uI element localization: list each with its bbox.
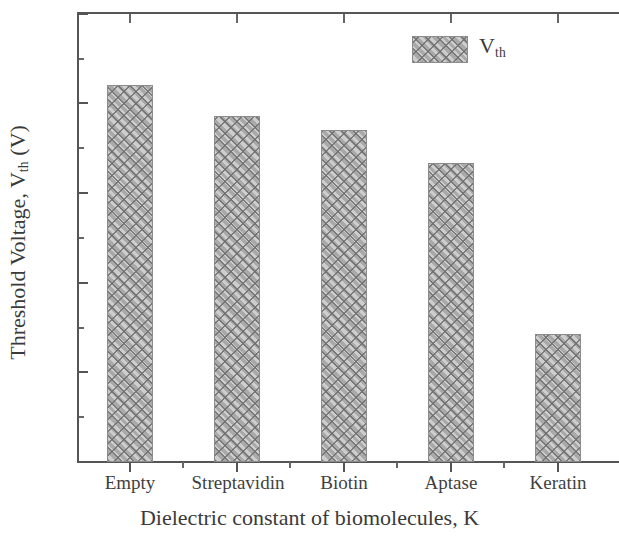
x-tick-top-2 [343,14,345,23]
x-tick-major-0 [129,462,131,472]
y-tick-major-0 [79,461,88,463]
y-tick-minor-0 [79,416,84,418]
x-tick-top-4 [557,14,559,23]
bar-aptase [428,163,474,462]
y-tick-major-4 [79,102,88,104]
legend-label-vth: Vth [479,34,506,65]
legend-swatch-vth [412,36,468,63]
legend: Vth [412,34,506,64]
y-tick-minor-4 [79,58,84,60]
x-tick-minor-1 [289,462,291,468]
x-tick-major-4 [557,462,559,472]
y-axis-title-unit: (V) [5,125,30,161]
y-axis-title-subscript: th [16,161,31,172]
bar-biotin [321,130,367,462]
x-tick-top-1 [236,14,238,23]
x-label-empty: Empty [75,472,185,494]
y-tick-major-5 [79,13,88,15]
x-tick-top-0 [129,14,131,23]
x-axis-title: Dielectric constant of biomolecules, K [0,505,619,531]
x-tick-top-3 [450,14,452,23]
legend-label-main: V [479,33,495,58]
x-label-streptavidin: Streptavidin [172,472,304,494]
y-tick-major-3 [79,192,88,194]
x-tick-major-3 [450,462,452,472]
x-tick-major-1 [236,462,238,472]
y-axis-title: Threshold Voltage, Vth (V) [6,7,37,477]
x-tick-minor-3 [503,462,505,468]
x-tick-minor-2 [396,462,398,468]
bar-keratin [535,334,581,462]
y-tick-minor-2 [79,237,84,239]
bar-streptavidin [214,116,260,462]
axis-line-top [78,12,619,14]
bar-chart: 0.0 0.2 0.4 0.6 0.8 1.0 Empty Streptavid… [0,0,619,537]
x-tick-major-2 [343,462,345,472]
x-tick-minor-0 [182,462,184,468]
y-tick-major-1 [79,371,88,373]
x-label-keratin: Keratin [502,472,614,494]
x-label-aptase: Aptase [395,472,507,494]
legend-label-subscript: th [495,44,506,59]
bar-empty [107,85,153,462]
y-tick-minor-1 [79,327,84,329]
y-axis-title-main: Threshold Voltage, V [5,172,30,360]
y-tick-major-2 [79,282,88,284]
y-tick-minor-3 [79,147,84,149]
x-label-biotin: Biotin [288,472,400,494]
